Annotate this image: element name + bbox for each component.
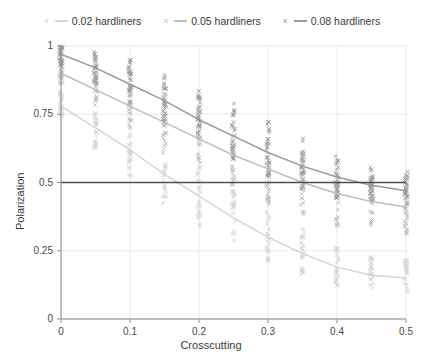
x-tick-label: 0 <box>41 326 81 337</box>
y-tick-label: 0.75 <box>19 108 53 119</box>
x-tick-label: 0.5 <box>386 326 422 337</box>
y-tick-label: 0.25 <box>19 245 53 256</box>
y-tick-label: 1 <box>19 40 53 51</box>
x-tick-label: 0.1 <box>110 326 150 337</box>
y-tick-label: 0.5 <box>19 177 53 188</box>
x-tick-label: 0.4 <box>317 326 357 337</box>
x-axis-title: Crosscutting <box>0 339 422 351</box>
plot-canvas <box>0 0 422 361</box>
x-tick-label: 0.2 <box>179 326 219 337</box>
scatter-series-0 <box>58 90 410 293</box>
x-tick-label: 0.3 <box>248 326 288 337</box>
y-tick-label: 0 <box>19 313 53 324</box>
chart-figure: × 0.02 hardliners × 0.05 hardliners × 0.… <box>0 0 422 361</box>
